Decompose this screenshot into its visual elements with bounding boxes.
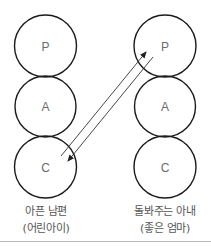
left-person-label: 아픈 남편 (어린아이) bbox=[0, 203, 96, 237]
left-child-letter: C bbox=[41, 161, 50, 175]
arrow-parent-to-child-icon bbox=[68, 57, 153, 161]
left-person-ego-states: P A C bbox=[15, 15, 77, 198]
left-adult-letter: A bbox=[41, 100, 49, 114]
right-label-line1: 돌봐주는 아내 bbox=[115, 203, 211, 220]
transaction-arrows bbox=[61, 52, 153, 161]
right-person-ego-states: P A C bbox=[134, 15, 196, 198]
right-adult-letter: A bbox=[161, 100, 169, 114]
right-label-line2: (좋은 엄마) bbox=[115, 220, 211, 237]
left-parent-letter: P bbox=[41, 40, 49, 54]
right-child-letter: C bbox=[161, 161, 170, 175]
right-person-label: 돌봐주는 아내 (좋은 엄마) bbox=[115, 203, 211, 237]
left-label-line1: 아픈 남편 bbox=[0, 203, 96, 220]
right-parent-letter: P bbox=[161, 40, 169, 54]
bottom-divider bbox=[0, 241, 211, 242]
arrow-child-to-parent-icon bbox=[61, 52, 146, 156]
left-label-line2: (어린아이) bbox=[0, 220, 96, 237]
